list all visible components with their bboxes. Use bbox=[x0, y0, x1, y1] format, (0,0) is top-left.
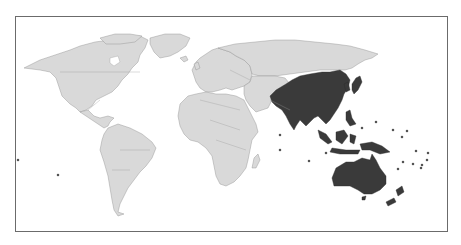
australia bbox=[332, 154, 386, 194]
north-america bbox=[24, 36, 148, 112]
papua-new-guinea bbox=[360, 142, 390, 154]
indonesia bbox=[318, 130, 360, 154]
new-zealand bbox=[386, 186, 404, 206]
africa bbox=[178, 92, 258, 186]
philippines bbox=[346, 110, 356, 126]
central-america bbox=[80, 110, 114, 128]
japan bbox=[352, 76, 362, 94]
world-map bbox=[0, 0, 461, 245]
greenland bbox=[150, 34, 190, 58]
